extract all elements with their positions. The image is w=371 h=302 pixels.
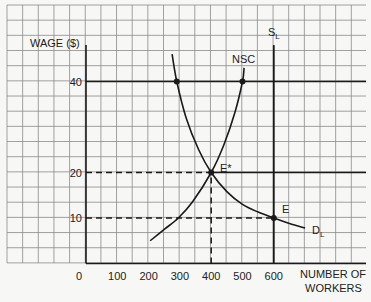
e-label: E bbox=[282, 203, 289, 215]
e-star-label: E* bbox=[220, 162, 232, 174]
y-tick-label: 20 bbox=[70, 167, 82, 179]
x-tick-label: 0 bbox=[76, 270, 82, 282]
curve-nsc bbox=[150, 68, 244, 241]
sl-label: SL bbox=[268, 26, 280, 41]
x-tick-label: 300 bbox=[171, 270, 189, 282]
y-tick-labels: 102040 bbox=[70, 76, 82, 225]
curves bbox=[150, 45, 305, 263]
dl-subscript: L bbox=[320, 230, 325, 239]
x-tick-labels: 0100200300400500600 bbox=[76, 270, 283, 282]
y-tick-label: 10 bbox=[70, 212, 82, 224]
x-tick-label: 400 bbox=[202, 270, 220, 282]
y-tick-label: 40 bbox=[70, 76, 82, 88]
x-tick-label: 100 bbox=[108, 270, 126, 282]
sl-subscript: L bbox=[275, 32, 280, 41]
nsc-label: NSC bbox=[232, 53, 255, 65]
x-axis-label-line1: NUMBER OF bbox=[300, 268, 366, 280]
x-tick-label: 600 bbox=[265, 270, 283, 282]
markers bbox=[174, 79, 277, 222]
point-marker bbox=[240, 79, 246, 85]
wage-chart: WAGE ($) NUMBER OF WORKERS NSC SL DL E* … bbox=[0, 0, 371, 302]
x-axis-label-line2: WORKERS bbox=[305, 282, 362, 294]
point-marker-e bbox=[271, 215, 277, 221]
point-marker-e-star bbox=[208, 170, 214, 176]
x-tick-label: 200 bbox=[139, 270, 157, 282]
x-tick-label: 500 bbox=[233, 270, 251, 282]
point-marker bbox=[174, 79, 180, 85]
y-axis-label: WAGE ($) bbox=[30, 37, 80, 49]
dl-label: DL bbox=[312, 224, 325, 239]
